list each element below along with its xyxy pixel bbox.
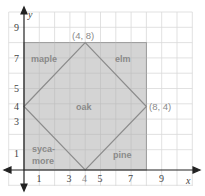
y-tick-5: 5 <box>14 83 19 94</box>
y-axis-label: y <box>27 9 33 20</box>
y-tick-1: 1 <box>14 148 19 159</box>
region-maple: maple <box>31 54 57 64</box>
y-tick-9: 9 <box>14 22 19 33</box>
x-tick-4: 4 <box>82 173 87 184</box>
region-pine: pine <box>113 150 132 160</box>
coordinate-plane: y x 9 7 5 4 3 1 1 3 4 5 7 9 (4, 8) (8, 4… <box>0 0 205 196</box>
x-tick-1: 1 <box>37 173 42 184</box>
x-tick-5: 5 <box>98 173 103 184</box>
x-axis-label: x <box>185 175 191 186</box>
point-label-8-4: (8, 4) <box>149 101 171 112</box>
y-tick-4: 4 <box>14 101 19 112</box>
region-elm: elm <box>115 54 131 64</box>
x-tick-9: 9 <box>159 173 164 184</box>
y-tick-3: 3 <box>14 116 19 127</box>
region-oak: oak <box>76 102 93 112</box>
region-sycamore-line2: more <box>32 156 54 166</box>
x-tick-7: 7 <box>128 173 133 184</box>
point-label-4-8: (4, 8) <box>72 30 94 41</box>
x-tick-3: 3 <box>67 173 72 184</box>
region-sycamore-line1: syca- <box>32 144 55 154</box>
y-tick-7: 7 <box>14 53 19 64</box>
